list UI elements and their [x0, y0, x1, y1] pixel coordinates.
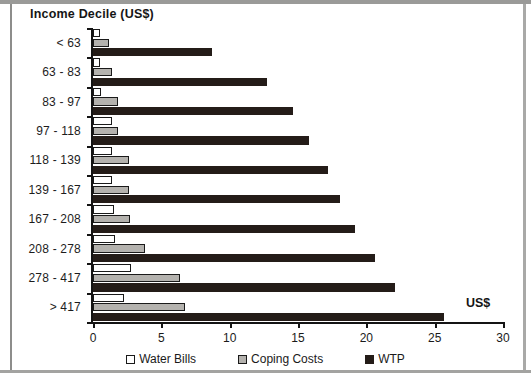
- bar-coping: [93, 156, 129, 164]
- bar-water: [93, 176, 112, 184]
- x-axis-line: [91, 322, 503, 324]
- plot-area: < 6363 - 8383 - 9797 - 118118 - 139139 -…: [93, 28, 503, 322]
- category-label: 63 - 83: [42, 65, 81, 79]
- bar-water: [93, 117, 112, 125]
- bar-water: [93, 147, 112, 155]
- x-axis-unit-label: US$: [466, 296, 490, 310]
- legend-label: Water Bills: [139, 352, 196, 366]
- x-axis-tick-label: 5: [158, 331, 165, 345]
- y-axis-tick: [87, 234, 93, 236]
- legend-item: Water Bills: [126, 352, 196, 366]
- x-axis-tick: [93, 322, 95, 328]
- bar-coping: [93, 215, 130, 223]
- x-axis-tick-label: 20: [360, 331, 373, 345]
- chart-figure: Income Decile (US$) < 6363 - 8383 - 9797…: [0, 0, 531, 373]
- bar-wtp: [93, 136, 309, 144]
- bar-coping: [93, 186, 129, 194]
- bar-wtp: [93, 195, 340, 203]
- bar-wtp: [93, 107, 293, 115]
- x-axis-tick: [503, 322, 505, 328]
- x-axis-tick-label: 25: [428, 331, 441, 345]
- bar-coping: [93, 244, 145, 252]
- bar-coping: [93, 97, 118, 105]
- legend-item: Coping Costs: [238, 352, 323, 366]
- y-axis-tick: [87, 28, 93, 30]
- bar-coping: [93, 39, 109, 47]
- bar-wtp: [93, 283, 395, 291]
- bar-wtp: [93, 225, 355, 233]
- x-axis-tick: [435, 322, 437, 328]
- scan-edge-left: [10, 4, 12, 373]
- y-axis-tick: [87, 293, 93, 295]
- category-label: < 63: [57, 36, 82, 50]
- bar-wtp: [93, 254, 375, 262]
- scan-edge-right: [523, 4, 526, 373]
- y-axis-tick: [87, 175, 93, 177]
- x-axis-tick: [161, 322, 163, 328]
- x-axis-tick-label: 30: [496, 331, 509, 345]
- bar-coping: [93, 127, 118, 135]
- legend-swatch-icon: [238, 355, 247, 364]
- category-label: > 417: [50, 300, 81, 314]
- bar-wtp: [93, 78, 267, 86]
- y-axis-tick: [87, 57, 93, 59]
- category-label: 139 - 167: [28, 183, 81, 197]
- y-axis-tick: [87, 204, 93, 206]
- x-axis-tick: [366, 322, 368, 328]
- y-axis-tick: [87, 116, 93, 118]
- category-label: 208 - 278: [28, 242, 81, 256]
- legend-swatch-icon: [126, 355, 135, 364]
- bar-water: [93, 58, 100, 66]
- category-label: 167 - 208: [28, 212, 81, 226]
- bar-water: [93, 294, 124, 302]
- chart-title: Income Decile (US$): [30, 7, 154, 21]
- y-axis-tick: [87, 146, 93, 148]
- category-label: 83 - 97: [42, 95, 81, 109]
- bar-water: [93, 88, 101, 96]
- bar-wtp: [93, 48, 212, 56]
- bar-water: [93, 29, 100, 37]
- bar-coping: [93, 274, 180, 282]
- x-axis-tick-label: 10: [223, 331, 236, 345]
- legend-label: Coping Costs: [251, 352, 323, 366]
- category-label: 118 - 139: [29, 153, 81, 167]
- y-axis-tick: [87, 87, 93, 89]
- legend-swatch-icon: [365, 355, 374, 364]
- bar-water: [93, 264, 131, 272]
- chart-legend: Water BillsCoping CostsWTP: [0, 352, 531, 366]
- x-axis-tick-label: 15: [291, 331, 304, 345]
- bar-coping: [93, 68, 112, 76]
- x-axis-tick-label: 0: [90, 331, 97, 345]
- legend-item: WTP: [365, 352, 405, 366]
- y-axis-tick: [87, 263, 93, 265]
- bar-water: [93, 235, 115, 243]
- bar-water: [93, 205, 114, 213]
- bar-wtp: [93, 166, 328, 174]
- category-label: 278 - 417: [28, 271, 81, 285]
- bar-coping: [93, 303, 185, 311]
- x-axis-tick: [298, 322, 300, 328]
- legend-label: WTP: [378, 352, 405, 366]
- x-axis-tick: [230, 322, 232, 328]
- category-label: 97 - 118: [36, 124, 81, 138]
- bar-wtp: [93, 313, 444, 321]
- scan-edge-top: [0, 0, 531, 4]
